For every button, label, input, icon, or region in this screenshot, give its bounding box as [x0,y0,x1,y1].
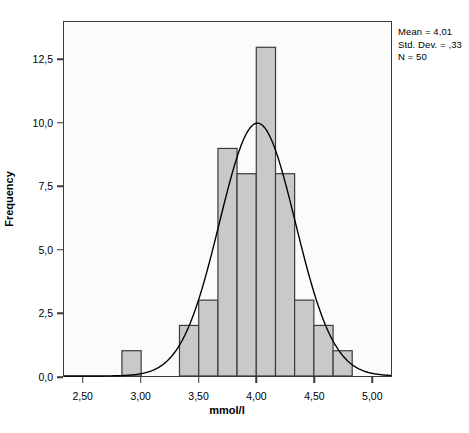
y-tick-label: 10,0 [33,117,53,129]
x-tick-mark [82,377,84,383]
x-tick-label: 5,00 [362,390,382,402]
x-tick-label: 4,50 [304,390,324,402]
x-tick-label: 3,50 [188,390,208,402]
histogram-chart: 0,02,55,07,510,012,5 Frequency 2,503,003… [0,0,469,433]
x-tick-mark [198,377,200,383]
x-tick-mark [140,377,142,383]
mean-text: Mean = 4,01 [398,26,462,39]
x-tick-label: 4,00 [246,390,266,402]
plot-area [64,22,391,376]
statistics-annotation: Mean = 4,01 Std. Dev. = ,33 N = 50 [398,26,462,64]
y-axis-title: Frequency [3,171,15,227]
x-tick-mark [372,377,374,383]
n-text: N = 50 [398,51,462,64]
normal-curve-layer [64,22,391,376]
y-tick-label: 5,0 [38,244,53,256]
y-tick-label: 7,5 [38,180,53,192]
x-axis: 2,503,003,504,004,505,00 [63,377,392,407]
x-tick-label: 2,50 [72,390,92,402]
y-tick-label: 2,5 [38,307,53,319]
y-tick-label: 12,5 [33,53,53,65]
x-tick-mark [314,377,316,383]
std-dev-text: Std. Dev. = ,33 [398,39,462,52]
normal-distribution-curve [64,123,391,376]
plot-frame [63,21,392,377]
x-tick-mark [256,377,258,383]
y-tick-label: 0,0 [38,371,53,383]
x-axis-title: mmol/l [209,404,244,416]
x-tick-label: 3,00 [130,390,150,402]
